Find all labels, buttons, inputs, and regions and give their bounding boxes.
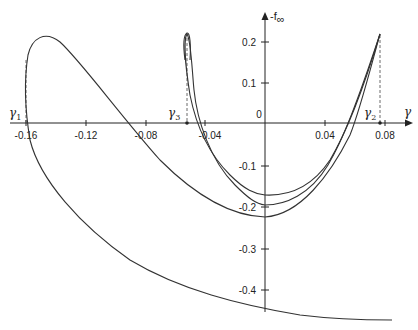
gamma2-point — [378, 121, 382, 125]
gamma3-point — [185, 121, 189, 125]
y-tick-label: -0.2 — [239, 202, 257, 213]
y-tick-label: -0.1 — [239, 161, 257, 172]
x-tick-label: -0.16 — [15, 130, 38, 141]
x-tick-label: -0.04 — [199, 130, 222, 141]
x-tick-label: 0.08 — [375, 130, 395, 141]
gamma2-label: γ2 — [364, 106, 376, 122]
x-tick-label: 0.04 — [315, 130, 335, 141]
x-axis-arrow-icon — [405, 120, 413, 127]
gamma3-label: γ3 — [168, 106, 180, 122]
inner-curve-a — [185, 34, 380, 195]
y-tick-label: 0.1 — [242, 78, 256, 89]
y-axis-title: -f∞ — [270, 10, 285, 25]
outer-curve — [26, 34, 392, 320]
y-axis-arrow-icon — [262, 12, 269, 20]
y-tick-label: 0.2 — [242, 37, 256, 48]
x-tick-label: 0 — [256, 109, 262, 120]
x-tick-label: -0.12 — [75, 130, 98, 141]
bifurcation-chart: -0.16 -0.12 -0.08 -0.04 0 0.04 0.08 0.2 … — [0, 0, 418, 330]
y-tick-label: -0.4 — [239, 285, 257, 296]
gamma1-label: γ1 — [9, 106, 21, 122]
x-tick-label: -0.08 — [135, 130, 158, 141]
inner-curve-b — [187, 34, 380, 205]
y-tick-labels: 0.2 0.1 -0.1 -0.2 -0.3 -0.4 — [239, 37, 257, 296]
y-tick-label: -0.3 — [239, 244, 257, 255]
x-axis-title: γ — [404, 105, 412, 119]
